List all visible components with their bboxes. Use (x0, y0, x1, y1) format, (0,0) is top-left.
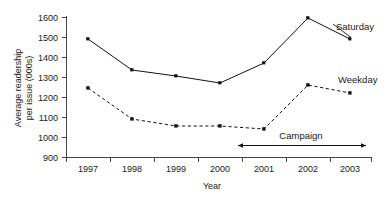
x-tick-label-2002: 2002 (298, 164, 318, 174)
data-point-weekday-2003 (348, 91, 351, 94)
data-point-weekday-1998 (130, 117, 133, 120)
annotation-campaign: Campaign (238, 130, 366, 148)
data-point-weekday-2000 (218, 124, 221, 127)
y-axis-title-line2: per issue (000s) (24, 56, 34, 121)
series-weekday (86, 83, 351, 130)
x-tick-label-1999: 1999 (166, 164, 186, 174)
y-tick-label-1500: 1500 (38, 33, 58, 43)
annotation-campaign-label: Campaign (279, 130, 322, 141)
x-tick-label-2003: 2003 (340, 164, 360, 174)
data-point-saturday-1999 (174, 74, 177, 77)
data-point-saturday-2003 (348, 37, 351, 40)
x-tick-label-1998: 1998 (122, 164, 142, 174)
data-point-weekday-1999 (174, 124, 177, 127)
y-tick-label-900: 900 (43, 153, 58, 163)
series-label-weekday: Weekday (338, 74, 378, 85)
y-axis-title-line1: Average readership (13, 49, 23, 127)
y-tick-label-1400: 1400 (38, 53, 58, 63)
y-tick-label-1600: 1600 (38, 13, 58, 23)
series-saturday-line (88, 18, 350, 83)
chart-canvas: 1600 1500 1400 1300 1200 1100 1000 900 1… (0, 0, 390, 197)
line-chart: 1600 1500 1400 1300 1200 1100 1000 900 1… (0, 0, 390, 197)
data-point-saturday-2001 (262, 61, 265, 64)
data-point-saturday-1998 (130, 68, 133, 71)
y-tick-label-1300: 1300 (38, 73, 58, 83)
series-saturday (86, 16, 351, 84)
data-point-weekday-2001 (262, 127, 265, 130)
y-tick-label-1000: 1000 (38, 133, 58, 143)
data-point-saturday-1997 (86, 37, 89, 40)
x-axis-title: Year (203, 181, 221, 191)
y-tick-label-1100: 1100 (39, 113, 58, 123)
y-tick-label-1200: 1200 (38, 93, 58, 103)
annotation-arrow-left-icon (238, 143, 243, 147)
y-axis-ticks (62, 18, 67, 158)
data-point-saturday-2000 (218, 81, 221, 84)
x-tick-label-1997: 1997 (78, 164, 98, 174)
data-point-weekday-2002 (306, 83, 309, 86)
x-tick-label-2000: 2000 (210, 164, 230, 174)
series-weekday-line (88, 85, 350, 129)
data-point-saturday-2002 (306, 16, 309, 19)
data-point-weekday-1997 (86, 86, 89, 89)
x-tick-label-2001: 2001 (254, 164, 274, 174)
annotation-arrow-right-icon (361, 143, 366, 147)
x-axis-ticks (67, 158, 372, 163)
